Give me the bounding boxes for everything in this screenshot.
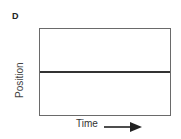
x-axis-label: Time <box>76 118 98 129</box>
plot-area <box>39 28 171 116</box>
panel-label: D <box>12 11 19 21</box>
position-line <box>40 71 170 73</box>
right-arrow-icon <box>104 122 142 132</box>
y-axis-label: Position <box>14 62 25 98</box>
